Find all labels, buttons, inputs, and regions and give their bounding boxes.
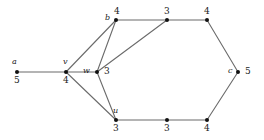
- vertex-weight-label: 3: [164, 124, 170, 133]
- graph-vertex: [64, 70, 68, 74]
- graph-vertex: [114, 118, 118, 122]
- graph-vertex: [236, 70, 240, 74]
- graph-edge: [207, 72, 238, 120]
- graph-vertex: [205, 18, 209, 22]
- graph-edge: [66, 20, 116, 72]
- vertex-weight-label: 5: [245, 67, 251, 76]
- vertex-name-label: b: [105, 14, 110, 22]
- vertex-weight-label: 3: [113, 124, 119, 133]
- vertex-weight-label: 5: [14, 76, 20, 85]
- graph-vertex: [15, 70, 19, 74]
- vertices-group: [15, 18, 240, 122]
- graph-edge: [207, 20, 238, 72]
- vertex-name-label: a: [12, 58, 17, 66]
- vertex-name-label: w: [83, 67, 90, 75]
- graph-vertex: [205, 118, 209, 122]
- vertex-weight-label: 4: [204, 7, 210, 16]
- vertex-weight-label: 3: [104, 67, 110, 76]
- vertex-weight-label: 3: [164, 7, 170, 16]
- vertex-name-label: u: [113, 107, 118, 115]
- graph-vertex: [114, 18, 118, 22]
- edges-group: [17, 20, 238, 120]
- graph-edge: [66, 72, 116, 120]
- graph-figure: a5v4w3b434c543u3: [0, 0, 264, 140]
- vertex-weight-label: 4: [63, 76, 69, 85]
- graph-edge: [97, 20, 116, 72]
- vertex-name-label: v: [63, 58, 68, 66]
- vertex-weight-label: 4: [204, 124, 210, 133]
- vertex-name-label: c: [228, 67, 232, 75]
- graph-edge: [97, 20, 167, 72]
- graph-vertex: [95, 70, 99, 74]
- graph-vertex: [165, 18, 169, 22]
- graph-vertex: [165, 118, 169, 122]
- graph-canvas: [0, 0, 264, 140]
- vertex-weight-label: 4: [114, 7, 120, 16]
